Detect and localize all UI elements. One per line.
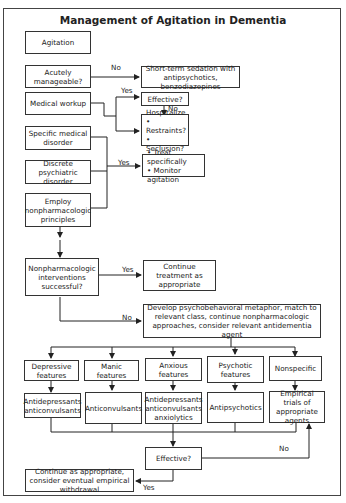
node-treatment-depressive: Antidepressants anticonvulsants (24, 393, 81, 418)
node-treatment-anxious: Antidepressants anticonvulsants anxiolyt… (145, 392, 202, 424)
treat-item: • Monitor agitation (147, 166, 202, 184)
node-continue-withdrawal: Continue as appropriate, consider eventu… (25, 469, 134, 492)
edge-label-no-sedation: No (111, 63, 121, 72)
node-nonpharm-successful: Nonpharmacologic interventions successfu… (25, 258, 99, 296)
node-feature-depressive: Depressive features (24, 360, 79, 381)
node-treatment-psychotic: Antipsychotics (207, 392, 264, 423)
node-acutely-manageable: Acutely manageable? (25, 65, 91, 88)
node-effective-2: Effective? (145, 447, 202, 470)
node-feature-psychotic: Psychotic features (207, 356, 264, 383)
node-continue-treatment: Continue treatment as appropriate (143, 260, 216, 291)
node-feature-manic: Manic features (84, 360, 139, 381)
node-short-term-sedation: Short-term sedation with antipsychotics,… (141, 66, 240, 88)
node-treat: • Treat specifically • Monitor agitation (142, 154, 205, 177)
node-develop-metaphor: Develop psychobehavioral metaphor, match… (143, 304, 321, 338)
node-hospitalize: Hospitalize • Restraints? • Seclusion? (141, 114, 189, 146)
node-treatment-nonspecific: Empirical trials of appropriate agents (269, 391, 325, 423)
node-feature-nonspecific: Nonspecific (269, 356, 322, 381)
edge-label-yes-effective: Yes (121, 86, 133, 95)
node-employ-nonpharm: Employ nonpharmacologic principles (25, 193, 91, 227)
edge-label-yes-withdrawal: Yes (143, 483, 155, 492)
edge-label-no-retry: No (279, 444, 289, 453)
hospitalize-item: • Restraints? (146, 117, 186, 135)
edge-label-yes-continue: Yes (122, 265, 134, 274)
node-treatment-manic: Anticonvulsants (85, 392, 142, 424)
node-medical-workup: Medical workup (25, 92, 91, 115)
treat-item: • Treat specifically (147, 148, 202, 166)
edge-label-no-develop: No (122, 313, 132, 322)
node-feature-anxious: Anxious features (145, 358, 202, 381)
node-agitation: Agitation (25, 31, 91, 54)
node-specific-medical-disorder: Specific medical disorder (25, 126, 91, 150)
node-discrete-psychiatric-disorder: Discrete psychiatric disorder (25, 160, 91, 184)
edge-label-yes-treat: Yes (118, 158, 130, 167)
node-effective-1: Effective? (141, 92, 189, 106)
